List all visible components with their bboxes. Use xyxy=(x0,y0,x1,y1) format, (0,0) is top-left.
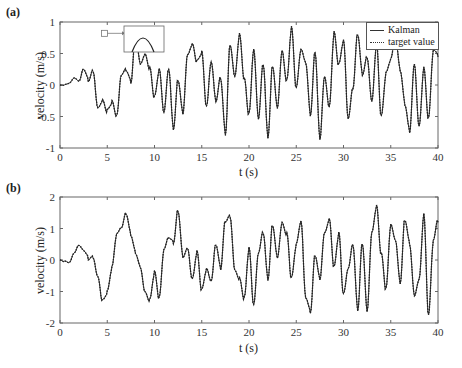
y-tick-label: 0 xyxy=(50,254,56,266)
legend-item-target: target value xyxy=(370,36,435,48)
x-tick-label: 30 xyxy=(338,151,350,163)
figure: 0510152025303540-1-0.500.510510152025303… xyxy=(0,0,462,368)
x-tick-label: 10 xyxy=(149,151,161,163)
legend: Kalman target value xyxy=(366,22,439,50)
x-tick-label: 40 xyxy=(433,326,445,338)
legend-label-kalman: Kalman xyxy=(388,24,420,35)
x-tick-label: 35 xyxy=(385,326,397,338)
x-tick-label: 15 xyxy=(196,326,208,338)
x-tick-label: 25 xyxy=(291,151,303,163)
y-axis-label-a: velocity (m/s) xyxy=(33,36,48,136)
y-tick-label: 1 xyxy=(50,16,56,28)
x-axis-label-b: t (s) xyxy=(239,341,258,356)
x-tick-label: 20 xyxy=(244,326,256,338)
x-tick-label: 20 xyxy=(244,151,256,163)
y-tick-label: -2 xyxy=(46,317,55,329)
panel-label-b: (b) xyxy=(6,181,21,196)
panel-label-a: (a) xyxy=(6,5,20,20)
x-tick-label: 35 xyxy=(385,151,397,163)
x-tick-label: 0 xyxy=(57,326,63,338)
solid-line-swatch-icon xyxy=(370,30,384,31)
x-tick-label: 5 xyxy=(105,151,111,163)
legend-item-kalman: Kalman xyxy=(370,24,420,36)
x-tick-label: 30 xyxy=(338,326,350,338)
axes-b: 0510152025303540-2-1012 xyxy=(46,191,444,338)
y-tick-label: 1 xyxy=(50,223,56,235)
dotted-line-swatch-icon xyxy=(370,42,384,43)
x-tick-label: 15 xyxy=(196,151,208,163)
x-tick-label: 25 xyxy=(291,326,303,338)
y-tick-label: -1 xyxy=(46,142,55,154)
legend-label-target: target value xyxy=(388,36,435,47)
x-tick-label: 0 xyxy=(57,151,63,163)
y-tick-label: 0 xyxy=(50,79,56,91)
y-axis-label-b: velocity (m/s) xyxy=(33,211,48,311)
x-tick-label: 40 xyxy=(433,151,445,163)
x-tick-label: 10 xyxy=(149,326,161,338)
y-tick-label: 2 xyxy=(50,191,56,203)
plot-canvas: 0510152025303540-1-0.500.510510152025303… xyxy=(0,0,462,368)
plot-frame xyxy=(60,197,438,323)
x-tick-label: 5 xyxy=(105,326,111,338)
x-axis-label-a: t (s) xyxy=(239,165,258,180)
inset-box xyxy=(124,26,164,52)
